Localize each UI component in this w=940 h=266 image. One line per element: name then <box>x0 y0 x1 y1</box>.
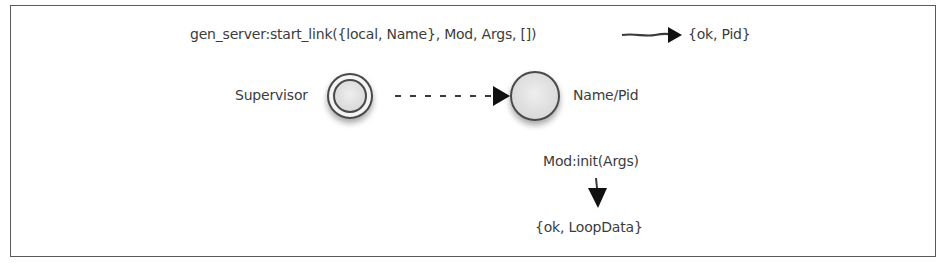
supervisor-node-icon <box>328 74 372 118</box>
init-arrow <box>588 178 607 208</box>
start-link-call-label: gen_server:start_link({local, Name}, Mod… <box>190 26 536 42</box>
init-result-label: {ok, LoopData} <box>535 219 643 235</box>
start-link-arrow <box>622 27 682 43</box>
worker-node-icon <box>511 72 559 120</box>
init-call-label: Mod:init(Args) <box>543 153 639 169</box>
spawn-link-arrow <box>395 86 510 106</box>
supervisor-label: Supervisor <box>235 87 308 103</box>
worker-label: Name/Pid <box>573 87 638 103</box>
start-link-result-label: {ok, Pid} <box>688 26 751 42</box>
